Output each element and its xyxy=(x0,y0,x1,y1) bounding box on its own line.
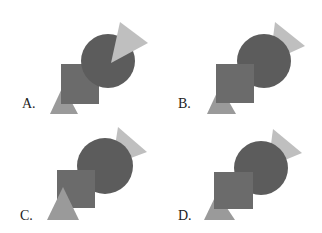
square-shape xyxy=(214,172,253,209)
option-d[interactable]: D. xyxy=(178,129,302,223)
figure-options: A. B. C. D. xyxy=(0,0,322,233)
option-a-label: A. xyxy=(22,96,36,111)
option-d-label: D. xyxy=(178,208,192,223)
option-b[interactable]: B. xyxy=(178,22,305,114)
option-a[interactable]: A. xyxy=(22,22,148,114)
option-c-label: C. xyxy=(20,208,33,223)
option-c[interactable]: C. xyxy=(20,127,147,223)
square-shape xyxy=(216,64,254,103)
option-b-label: B. xyxy=(178,96,191,111)
options-canvas: A. B. C. D. xyxy=(0,0,322,233)
